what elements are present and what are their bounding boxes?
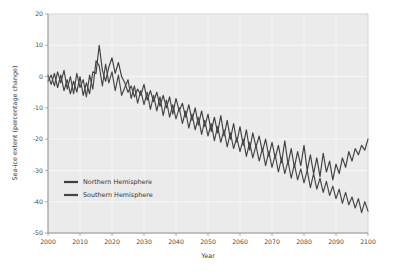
x-tick-label: 2060 [232,238,248,245]
legend-label-northern-hemisphere: Northern Hemisphere [83,178,152,186]
y-tick-label: -20 [33,135,43,142]
x-axis-title: Year [200,252,215,260]
y-tick-label: -40 [33,198,43,205]
x-tick-label: 2020 [104,238,120,245]
y-tick-label: -50 [33,229,43,236]
y-tick-label: -10 [33,104,43,111]
sea-ice-extent-line-chart: 2000201020202030204020502060207020802090… [0,0,395,279]
y-tick-label: -30 [33,167,43,174]
x-tick-label: 2010 [72,238,88,245]
x-tick-label: 2090 [328,238,344,245]
y-axis-title: Sea-ice extent (percentage change) [11,65,19,180]
x-tick-label: 2100 [360,238,376,245]
x-tick-label: 2070 [264,238,280,245]
x-tick-label: 2080 [296,238,312,245]
x-tick-label: 2030 [136,238,152,245]
chart-figure: 2000201020202030204020502060207020802090… [0,0,395,279]
legend-label-southern-hemisphere: Southern Hemisphere [83,191,153,199]
x-tick-label: 2040 [168,238,184,245]
x-tick-label: 2000 [40,238,56,245]
x-tick-label: 2050 [200,238,216,245]
y-tick-label: 0 [39,73,43,80]
y-tick-label: 10 [35,41,43,48]
y-tick-label: 20 [35,10,43,17]
